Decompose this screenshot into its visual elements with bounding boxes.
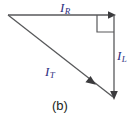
right-angle-marker-path [97,15,114,32]
vector-label-il-sub: L [121,54,127,64]
vector-ir-arrowhead [108,11,116,19]
vector-label-il: IL [117,49,127,64]
vector-label-it-sub: T [49,70,55,80]
vector-label-ir: IR [60,1,70,16]
phasor-diagram-figure: IR IL IT (b) [0,0,133,120]
right-angle-marker [97,15,114,32]
figure-caption: (b) [52,99,68,112]
vector-label-it: IT [45,65,55,80]
vector-label-ir-sub: R [64,6,70,16]
